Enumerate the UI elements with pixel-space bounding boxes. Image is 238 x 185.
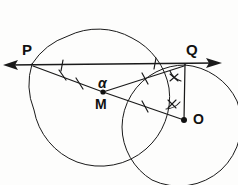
segment-Q-O xyxy=(184,64,185,120)
point-label-P: P xyxy=(22,42,32,57)
figure-canvas xyxy=(0,0,238,185)
tick-on-MO xyxy=(142,101,148,112)
tick-on-PM-upper xyxy=(59,70,66,80)
small-circle xyxy=(122,65,238,185)
angle-label-alpha: α xyxy=(98,76,107,90)
point-label-Q: Q xyxy=(186,42,198,57)
point-label-O: O xyxy=(193,112,204,126)
geometry-figure: P Q O M α xyxy=(0,0,238,185)
tick-on-PM-lower xyxy=(76,78,83,89)
tick-on-PQ-left xyxy=(61,60,63,71)
point-dot-O xyxy=(181,117,187,123)
segment-M-O xyxy=(103,92,184,120)
point-label-M: M xyxy=(95,97,107,111)
segment-P-M xyxy=(33,66,103,92)
